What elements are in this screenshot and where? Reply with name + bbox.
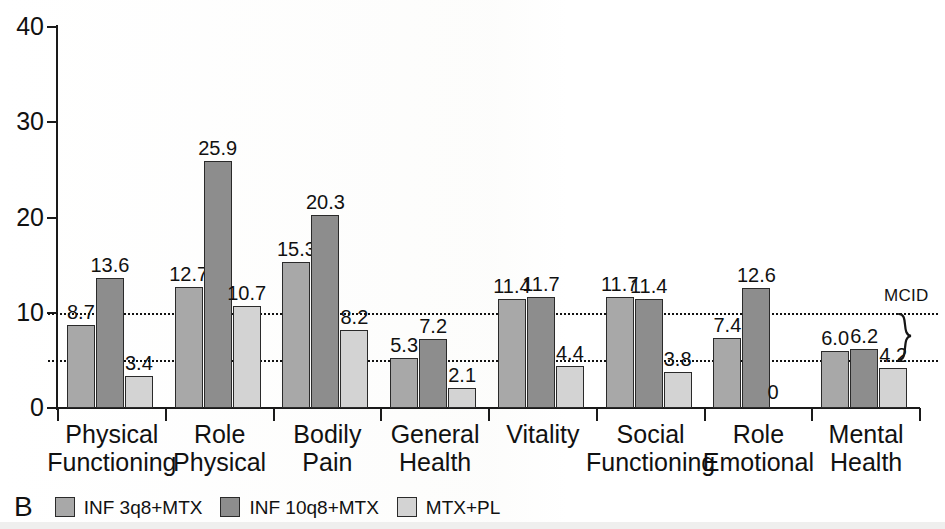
bar bbox=[448, 388, 476, 408]
y-tick-label-40: 40 bbox=[0, 14, 44, 39]
bar-value-label: 3.8 bbox=[653, 349, 703, 369]
legend-swatch-icon bbox=[220, 497, 240, 517]
bar-chart: 010203040 8.713.63.412.725.910.715.320.3… bbox=[0, 0, 945, 529]
bar bbox=[67, 325, 95, 408]
category-label-line: Health bbox=[335, 448, 535, 476]
y-tick-label-0: 0 bbox=[0, 395, 44, 420]
legend-label: INF 10q8+MTX bbox=[249, 498, 378, 517]
chart-legend: B INF 3q8+MTXINF 10q8+MTXMTX+PL bbox=[10, 489, 518, 525]
bar-value-label: 3.4 bbox=[114, 353, 164, 373]
page-edge-band bbox=[0, 522, 945, 529]
bars-layer: 8.713.63.412.725.910.715.320.38.25.37.22… bbox=[58, 27, 920, 408]
bar bbox=[879, 368, 907, 408]
y-tick-label-10: 10 bbox=[0, 300, 44, 325]
category-label-line: Health bbox=[766, 448, 945, 476]
bar bbox=[340, 330, 368, 408]
bar bbox=[96, 278, 124, 408]
legend-label: MTX+PL bbox=[426, 498, 500, 517]
mcid-brace-icon bbox=[896, 311, 922, 363]
bar bbox=[498, 299, 526, 408]
y-tick-20 bbox=[47, 217, 58, 219]
bar bbox=[125, 376, 153, 408]
bar-value-label: 6.2 bbox=[839, 326, 889, 346]
bar bbox=[390, 358, 418, 408]
bar bbox=[821, 351, 849, 408]
bar bbox=[606, 297, 634, 408]
bar-value-label: 13.6 bbox=[85, 255, 135, 275]
y-tick-label-20: 20 bbox=[0, 205, 44, 230]
legend-swatch-icon bbox=[55, 497, 75, 517]
bar bbox=[664, 372, 692, 408]
legend-swatch-icon bbox=[397, 497, 417, 517]
category-label-line: Mental bbox=[766, 420, 945, 448]
bar-value-label: 8.2 bbox=[329, 307, 379, 327]
bar-value-label: 10.7 bbox=[222, 283, 272, 303]
bar-value-label: 7.2 bbox=[408, 316, 458, 336]
legend-item-2[interactable]: MTX+PL bbox=[397, 497, 500, 517]
legend-item-0[interactable]: INF 3q8+MTX bbox=[55, 497, 203, 517]
bar bbox=[175, 287, 203, 408]
legend-item-1[interactable]: INF 10q8+MTX bbox=[220, 497, 378, 517]
bar bbox=[742, 288, 770, 408]
bar bbox=[713, 338, 741, 408]
panel-letter: B bbox=[14, 493, 33, 521]
bar bbox=[282, 262, 310, 408]
y-tick-40 bbox=[47, 26, 58, 28]
bar-value-label: 4.4 bbox=[545, 343, 595, 363]
bar-value-label: 11.4 bbox=[624, 276, 674, 296]
bar-value-label: 11.7 bbox=[516, 274, 566, 294]
y-tick-30 bbox=[47, 121, 58, 123]
bar-value-label: 12.6 bbox=[731, 265, 781, 285]
mcid-annotation-label: MCID bbox=[884, 287, 929, 304]
bar-value-label: 2.1 bbox=[437, 365, 487, 385]
bar bbox=[556, 366, 584, 408]
bar-value-label: 0 bbox=[767, 382, 817, 402]
bar-value-label: 20.3 bbox=[300, 192, 350, 212]
category-label-7: MentalHealth bbox=[766, 420, 945, 476]
bar bbox=[233, 306, 261, 408]
legend-label: INF 3q8+MTX bbox=[84, 498, 203, 517]
legend-items: INF 3q8+MTXINF 10q8+MTXMTX+PL bbox=[55, 497, 519, 517]
y-tick-label-30: 30 bbox=[0, 109, 44, 134]
bar-value-label: 25.9 bbox=[193, 138, 243, 158]
